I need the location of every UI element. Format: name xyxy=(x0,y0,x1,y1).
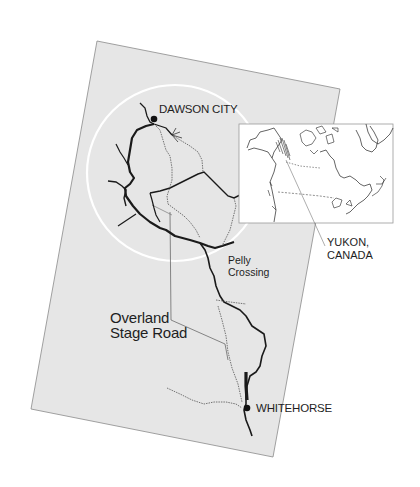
label-pelly-crossing: Pelly Crossing xyxy=(228,255,269,278)
label-whitehorse: WHITEHORSE xyxy=(256,402,332,415)
dawson-city-marker[interactable] xyxy=(151,116,158,123)
label-yukon-canada: YUKON, CANADA xyxy=(327,236,373,262)
whitehorse-marker[interactable] xyxy=(244,405,251,412)
label-pelly-line1: Pelly xyxy=(228,255,269,267)
yukon-lake-segment xyxy=(246,372,247,400)
inset-map xyxy=(239,124,393,223)
label-pelly-line2: Crossing xyxy=(228,267,269,279)
label-region-line2: CANADA xyxy=(327,249,373,262)
label-road-line1: Overland xyxy=(110,310,187,325)
label-overland-stage-road: Overland Stage Road xyxy=(110,310,187,340)
label-dawson-city: DAWSON CITY xyxy=(159,103,238,116)
label-region-line1: YUKON, xyxy=(327,236,373,249)
label-road-line2: Stage Road xyxy=(110,325,187,340)
